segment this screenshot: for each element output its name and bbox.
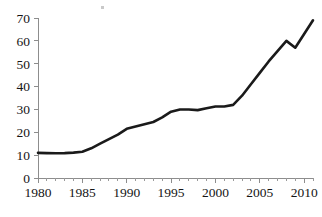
image-speck-artifact: [101, 6, 104, 9]
line-chart: 010203040506070 198019851990199520002005…: [0, 0, 322, 217]
x-tick-label: 1990: [113, 185, 140, 200]
y-tick-label: 30: [17, 102, 31, 117]
x-tick-label: 2005: [246, 185, 273, 200]
y-tick-label: 20: [17, 125, 31, 140]
x-tick-label: 1995: [158, 185, 185, 200]
x-tick-label: 1980: [25, 185, 52, 200]
x-tick-label: 2010: [291, 185, 318, 200]
y-tick-label: 40: [17, 79, 31, 94]
y-tick-label: 60: [17, 34, 31, 49]
y-tick-label: 10: [17, 148, 31, 163]
y-tick-label: 50: [17, 57, 31, 72]
y-tick-label: 0: [23, 171, 30, 186]
chart-container: 010203040506070 198019851990199520002005…: [0, 0, 322, 217]
x-tick-label: 1985: [69, 185, 96, 200]
x-tick-label: 2000: [202, 185, 229, 200]
y-tick-label: 70: [17, 11, 31, 26]
